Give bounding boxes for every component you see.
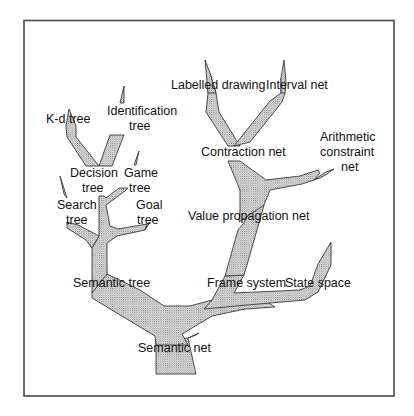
label-decision-tree-line-2: tree (82, 181, 104, 195)
label-game-tree-line-2: tree (129, 181, 151, 195)
label-identification-tree-line-2: tree (129, 119, 151, 133)
label-arithmetic-constraint-net-line-2: constraint (320, 145, 375, 159)
label-semantic-tree: Semantic tree (73, 276, 150, 290)
branch-search-tree-tip (60, 176, 67, 198)
representation-family-tree-diagram: Semantic net Semantic tree Frame system … (0, 0, 414, 416)
label-search-tree-line-2: tree (66, 213, 88, 227)
branch-identification-tree-tip (120, 86, 124, 103)
label-goal-tree-line-1: Goal (136, 198, 162, 212)
branch-decision-to-identification-tree (99, 135, 124, 166)
label-contraction-net: Contraction net (201, 145, 286, 159)
label-value-propagation-net: Value propagation net (188, 209, 310, 223)
label-decision-tree-line-1: Decision (70, 166, 118, 180)
label-search-tree-line-1: Search (57, 198, 97, 212)
label-game-tree-line-1: Game (124, 166, 158, 180)
label-goal-tree-line-2: tree (137, 213, 159, 227)
label-labelled-drawing: Labelled drawing (171, 78, 266, 92)
label-state-space: State space (285, 276, 351, 290)
label-frame-system: Frame system (207, 276, 286, 290)
label-semantic-net: Semantic net (138, 341, 211, 355)
label-identification-tree-line-1: Identification (107, 104, 177, 118)
branch-game-tree-tip (134, 151, 139, 165)
label-arithmetic-constraint-net-line-3: net (341, 160, 359, 174)
label-interval-net: Interval net (266, 78, 328, 92)
label-arithmetic-constraint-net-line-1: Arithmetic (320, 130, 376, 144)
label-k-d-tree: K-d tree (46, 112, 91, 126)
